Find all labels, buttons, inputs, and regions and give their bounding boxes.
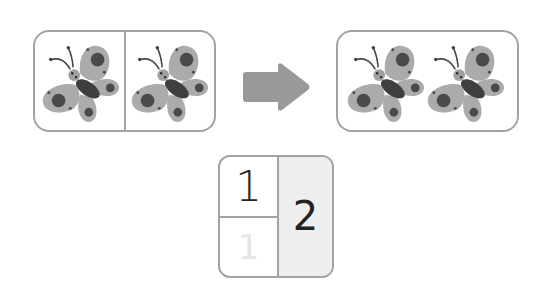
sum-value: 2: [277, 157, 334, 276]
butterfly-icon: [41, 40, 121, 124]
left-panel-divider: [124, 32, 126, 130]
butterfly-icon: [346, 40, 426, 124]
addend-bottom: 1: [220, 219, 277, 275]
butterfly-icon: [130, 40, 210, 124]
number-box-divider: [220, 216, 277, 218]
right-panel: [336, 30, 519, 132]
left-panel: [33, 30, 216, 132]
number-box: 1 1 2: [218, 155, 334, 278]
addend-top: 1: [220, 159, 277, 215]
arrow-right-icon: [242, 62, 312, 112]
butterfly-icon: [426, 40, 506, 124]
